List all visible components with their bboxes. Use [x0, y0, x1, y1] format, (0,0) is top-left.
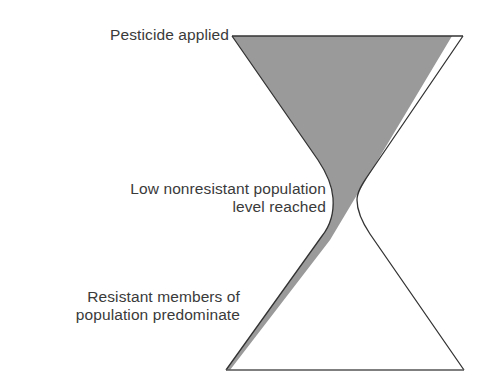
label-resistant-members: Resistant members of population predomin… — [76, 288, 240, 324]
label-low-line-2: level reached — [130, 198, 326, 216]
label-resistant-line-2: population predominate — [76, 306, 240, 324]
label-resistant-line-1: Resistant members of — [76, 288, 240, 306]
label-low-line-1: Low nonresistant population — [130, 180, 326, 198]
label-pesticide-applied: Pesticide applied — [110, 26, 229, 44]
pesticide-resistance-diagram: Pesticide applied Low nonresistant popul… — [0, 0, 485, 390]
label-low-nonresistant-population: Low nonresistant population level reache… — [130, 180, 326, 216]
